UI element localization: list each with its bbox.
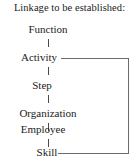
connector-tick-function-activity (48, 39, 49, 47)
connector-tick-step-organization (48, 95, 49, 103)
node-employee: Employee (21, 123, 66, 136)
diagram-title: Linkage to be established: (0, 2, 139, 14)
node-function: Function (28, 23, 67, 36)
node-skill: Skill (37, 146, 58, 159)
linkage-diagram: Linkage to be established: Function Acti… (0, 0, 139, 165)
feedback-line-top (61, 58, 129, 59)
feedback-line-right (128, 58, 129, 154)
node-activity: Activity (21, 51, 57, 64)
connector-tick-activity-step (48, 67, 49, 75)
feedback-line-bottom (58, 153, 129, 154)
node-step: Step (32, 79, 52, 92)
node-organization: Organization (19, 107, 76, 120)
